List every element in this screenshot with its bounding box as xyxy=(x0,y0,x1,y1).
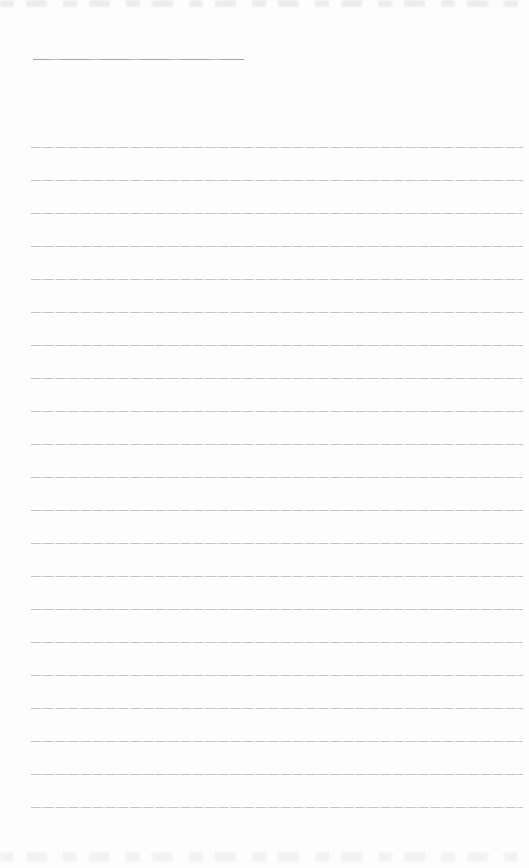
ruled-line xyxy=(31,180,523,181)
ruled-line xyxy=(31,477,523,478)
ruled-line xyxy=(31,312,523,313)
ruled-line xyxy=(31,411,523,412)
ruled-line xyxy=(31,345,523,346)
ruled-line xyxy=(31,279,523,280)
ruled-line xyxy=(31,510,523,511)
page-bottom-edge-texture xyxy=(0,852,529,862)
ruled-line xyxy=(31,378,523,379)
ruled-line xyxy=(31,576,523,577)
ruled-line xyxy=(31,807,523,808)
ruled-line xyxy=(31,213,523,214)
ruled-line xyxy=(31,609,523,610)
ruled-line xyxy=(31,675,523,676)
ruled-line xyxy=(31,774,523,775)
ruled-line xyxy=(31,708,523,709)
ruled-line xyxy=(31,444,523,445)
notebook-page xyxy=(0,0,529,868)
header-rule-line xyxy=(33,59,244,60)
ruled-line xyxy=(31,246,523,247)
ruled-line xyxy=(31,147,523,148)
ruled-line xyxy=(31,642,523,643)
ruled-line xyxy=(31,741,523,742)
ruled-line xyxy=(31,543,523,544)
page-top-edge-texture xyxy=(0,0,529,7)
